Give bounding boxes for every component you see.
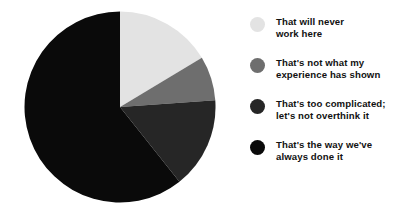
legend-swatch-never-work-here	[250, 17, 265, 32]
pie-chart-figure: That will never work here That's not wha…	[0, 0, 409, 217]
legend-label-never-work-here: That will never work here	[276, 16, 344, 39]
pie-svg	[24, 11, 216, 203]
legend-label-too-complicated: That's too complicated; let's not overth…	[276, 98, 386, 121]
legend-swatch-not-my-experience	[250, 58, 265, 73]
legend-item-always-done-it[interactable]: That's the way we've always done it	[250, 139, 405, 171]
legend-swatch-always-done-it	[250, 140, 265, 155]
pie-chart-graphic	[24, 11, 216, 203]
legend-item-never-work-here[interactable]: That will never work here	[250, 16, 405, 48]
legend-swatch-too-complicated	[250, 99, 265, 114]
chart-legend: That will never work here That's not wha…	[250, 16, 405, 180]
legend-item-not-my-experience[interactable]: That's not what my experience has shown	[250, 57, 405, 89]
legend-label-always-done-it: That's the way we've always done it	[276, 139, 372, 162]
pie-slices-group	[25, 12, 216, 203]
legend-item-too-complicated[interactable]: That's too complicated; let's not overth…	[250, 98, 405, 130]
legend-label-not-my-experience: That's not what my experience has shown	[276, 57, 380, 80]
